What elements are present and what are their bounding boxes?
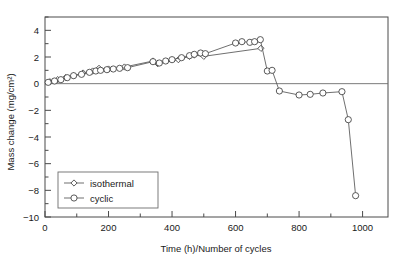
data-point-marker-circle (307, 91, 313, 97)
y-tick-label: −2 (28, 105, 39, 116)
data-point-marker-circle (178, 55, 184, 61)
data-point-marker-circle (202, 51, 208, 57)
data-point-marker-circle (353, 193, 359, 199)
data-point-marker-circle (252, 39, 258, 45)
x-tick-label: 800 (291, 222, 307, 233)
x-tick-label: 200 (101, 222, 117, 233)
chart-figure: 02004006008001000 420−2−4−6−8−10 Time (h… (0, 0, 404, 260)
legend-label: cyclic (90, 193, 113, 204)
y-tick-label: −6 (28, 158, 39, 169)
data-point-marker-circle (124, 65, 130, 71)
data-point-marker-circle (51, 78, 57, 84)
y-tick-labels: 420−2−4−6−8−10 (23, 25, 39, 223)
x-axis-title: Time (h)/Number of cycles (160, 243, 271, 254)
x-tick-label: 400 (164, 222, 180, 233)
data-point-marker-circle (276, 88, 282, 94)
data-point-marker-circle (232, 40, 238, 46)
data-point-marker-circle (117, 65, 123, 71)
y-tick-label: −4 (28, 132, 39, 143)
y-axis-title: Mass change (mg/cm²) (5, 73, 16, 170)
data-point-marker-circle (345, 117, 351, 123)
data-point-marker-circle (163, 58, 169, 64)
data-point-marker-circle (239, 39, 245, 45)
data-point-marker-circle (156, 60, 162, 66)
series-isothermal (47, 45, 264, 85)
data-point-marker-circle (191, 51, 197, 57)
data-point-marker-circle (269, 67, 275, 73)
data-point-marker-circle (86, 69, 92, 75)
x-tick-label: 1000 (352, 222, 373, 233)
data-point-marker-circle (64, 75, 70, 81)
data-point-marker-circle (78, 71, 84, 77)
data-point-marker-circle (296, 92, 302, 98)
data-point-marker-circle (150, 59, 156, 65)
y-tick-label: 2 (34, 52, 39, 63)
data-point-marker-circle (70, 73, 76, 79)
x-tick-labels: 02004006008001000 (42, 222, 373, 233)
y-tick-label: −10 (23, 212, 39, 223)
mass-change-vs-time-chart: 02004006008001000 420−2−4−6−8−10 Time (h… (0, 0, 404, 260)
y-tick-label: 0 (34, 78, 39, 89)
y-tick-label: 4 (34, 25, 39, 36)
y-tick-label: −8 (28, 185, 39, 196)
x-tick-label: 600 (228, 222, 244, 233)
x-tick-label: 0 (42, 222, 47, 233)
chart-legend: isothermalcyclic (58, 172, 158, 208)
data-point-marker-circle (110, 66, 116, 72)
data-point-marker-circle (97, 67, 103, 73)
legend-label: isothermal (90, 178, 134, 189)
data-point-marker-circle (339, 89, 345, 95)
data-point-marker-circle (320, 90, 326, 96)
data-point-marker-circle (58, 77, 64, 83)
data-point-marker-circle (169, 57, 175, 63)
data-point-marker-circle (71, 195, 77, 201)
data-point-marker-circle (257, 37, 263, 43)
data-point-marker-circle (45, 79, 51, 85)
data-point-marker-circle (104, 67, 110, 73)
